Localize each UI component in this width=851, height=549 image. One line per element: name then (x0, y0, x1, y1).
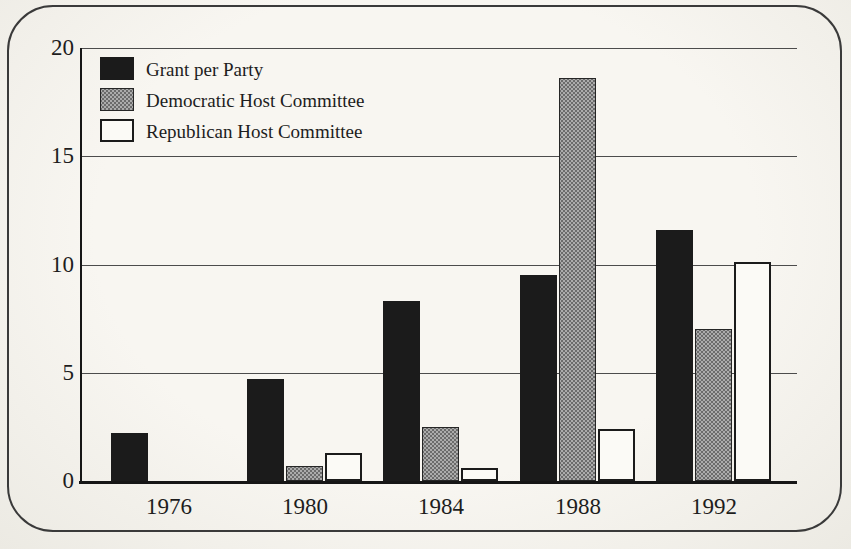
x-axis-line (79, 481, 797, 484)
bar-1976-solid-black (111, 433, 148, 481)
y-tick-label-20: 20 (16, 34, 74, 62)
bar-1992-solid-black (656, 230, 693, 481)
bar-1980-halftone-gray (286, 466, 323, 481)
gridline-y15 (80, 156, 797, 157)
bar-1988-solid-black (520, 275, 557, 481)
y-tick-label-15: 15 (16, 142, 74, 170)
legend-item-2: Democratic Host Committee (100, 88, 400, 111)
scanned-figure-page: 0510152019761980198419881992 Grant per P… (0, 0, 851, 549)
bar-1992-halftone-gray (695, 329, 732, 481)
y-tick-label-10: 10 (16, 251, 74, 279)
bar-1980-outline-white (325, 453, 362, 481)
x-tick-label-1976: 1976 (109, 494, 229, 520)
legend-swatch-halftone-gray (100, 88, 134, 111)
legend-item-3: Republican Host Committee (100, 119, 400, 142)
legend-label: Grant per Party (146, 58, 263, 81)
legend-swatch-solid-black (100, 57, 134, 80)
gridline-y20 (80, 48, 797, 49)
x-tick-label-1984: 1984 (381, 494, 501, 520)
bar-1980-solid-black (247, 379, 284, 481)
x-tick-label-1980: 1980 (245, 494, 365, 520)
y-tick-label-0: 0 (16, 467, 74, 495)
x-tick-label-1988: 1988 (518, 494, 638, 520)
bar-1992-outline-white (734, 262, 771, 481)
bar-1988-halftone-gray (559, 78, 596, 481)
legend-item-1: Grant per Party (100, 57, 400, 80)
legend-swatch-outline-white (100, 119, 134, 142)
legend-label: Democratic Host Committee (146, 89, 364, 112)
bar-1984-solid-black (383, 301, 420, 481)
y-tick-label-5: 5 (16, 359, 74, 387)
bar-1984-halftone-gray (422, 427, 459, 481)
bar-1984-outline-white (461, 468, 498, 481)
legend-label: Republican Host Committee (146, 120, 362, 143)
bar-1988-outline-white (598, 429, 635, 481)
y-axis-line (80, 48, 82, 483)
bar-chart: 0510152019761980198419881992 Grant per P… (0, 0, 851, 549)
x-tick-label-1992: 1992 (654, 494, 774, 520)
